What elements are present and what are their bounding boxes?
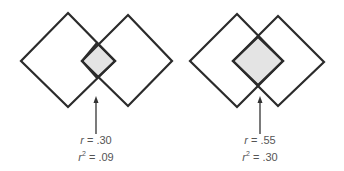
r-squared-value: r2 = .30	[220, 147, 300, 164]
r-squared-value: r2 = .09	[56, 147, 136, 164]
overlap-region	[233, 37, 283, 85]
diagram-right	[190, 14, 324, 134]
r-value: r = .55	[220, 133, 300, 147]
left-stats: r = .30 r2 = .09	[56, 133, 136, 164]
diagram-left	[21, 13, 172, 134]
right-stats: r = .55 r2 = .30	[220, 133, 300, 164]
r-value: r = .30	[56, 133, 136, 147]
arrow-head-icon	[258, 96, 263, 103]
arrow-head-icon	[94, 96, 99, 103]
overlap-region	[82, 43, 115, 78]
